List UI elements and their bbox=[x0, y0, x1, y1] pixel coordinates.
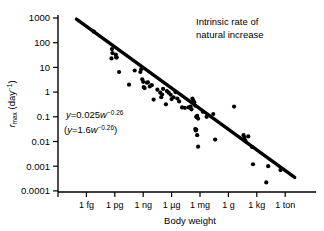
data-point bbox=[139, 67, 143, 71]
fit-equation-1: y=0.025w−0.26 bbox=[65, 109, 124, 121]
scatter-plot-svg: 10001001010.10.010.0010.0001 1 fg1 pg1 n… bbox=[0, 0, 324, 231]
x-tick-label: 1 pg bbox=[106, 200, 124, 210]
data-point bbox=[160, 92, 164, 96]
data-point bbox=[250, 145, 254, 149]
data-point bbox=[143, 86, 147, 90]
y-tick-label: 1000 bbox=[29, 12, 50, 23]
annotation-line-2: natural increase bbox=[196, 29, 264, 40]
y-tick-label: 0.01 bbox=[32, 136, 51, 147]
data-point bbox=[92, 30, 96, 34]
data-point bbox=[196, 116, 200, 120]
eq2-exponent: −0.26 bbox=[98, 124, 115, 131]
y-tick-label: 0.001 bbox=[26, 161, 50, 172]
y-tick-label: 1 bbox=[45, 86, 50, 97]
x-tick-label: 1 fg bbox=[79, 200, 94, 210]
y-tick-label: 10 bbox=[39, 62, 50, 73]
y-axis-unit-close: ) bbox=[6, 80, 17, 83]
eq1-exponent: −0.26 bbox=[107, 109, 124, 116]
data-point bbox=[201, 110, 205, 114]
eq2-coefficient: 1.6 bbox=[77, 124, 90, 135]
y-axis-subscript: max bbox=[11, 111, 18, 124]
data-point bbox=[109, 56, 113, 60]
data-point bbox=[243, 139, 247, 143]
data-point bbox=[117, 70, 121, 74]
x-tick-label: 1 ng bbox=[134, 200, 152, 210]
data-point bbox=[194, 128, 198, 132]
data-point bbox=[161, 87, 165, 91]
data-point bbox=[232, 104, 236, 108]
data-point bbox=[189, 107, 193, 111]
data-point bbox=[193, 104, 197, 108]
x-tick-label: 1 kg bbox=[248, 200, 265, 210]
data-point bbox=[251, 162, 255, 166]
x-tick-label: 1 g bbox=[222, 200, 235, 210]
annotation-line-1: Intrinsic rate of bbox=[196, 16, 259, 27]
fit-equation-2: (y=1.6w−0.26) bbox=[64, 124, 117, 136]
data-point bbox=[278, 168, 282, 172]
data-point bbox=[196, 145, 200, 149]
data-point bbox=[213, 137, 217, 141]
data-point bbox=[266, 164, 270, 168]
data-point bbox=[141, 80, 145, 84]
y-tick-label: 100 bbox=[34, 37, 50, 48]
x-axis-title: Body weight bbox=[164, 215, 216, 226]
x-tick-label: 1 mg bbox=[190, 200, 210, 210]
data-point bbox=[171, 95, 175, 99]
data-point bbox=[164, 102, 168, 106]
data-point bbox=[127, 83, 131, 87]
data-point bbox=[183, 106, 187, 110]
data-point bbox=[195, 133, 199, 137]
x-tick-label: 1 ton bbox=[275, 200, 295, 210]
data-point bbox=[115, 55, 119, 59]
data-point bbox=[264, 180, 268, 184]
data-point bbox=[133, 68, 137, 72]
eq2-close: ) bbox=[114, 124, 117, 135]
y-axis-ticks: 10001001010.10.010.0010.0001 bbox=[21, 12, 58, 196]
data-point bbox=[246, 134, 250, 138]
data-point bbox=[205, 115, 209, 119]
chart-figure: 10001001010.10.010.0010.0001 1 fg1 pg1 n… bbox=[0, 0, 324, 231]
data-point bbox=[152, 97, 156, 101]
x-axis-ticks: 1 fg1 pg1 ng1 µg1 mg1 g1 kg1 ton bbox=[58, 192, 295, 210]
y-axis-title: rmax (day−1) bbox=[6, 80, 18, 127]
y-tick-label: 0.0001 bbox=[21, 185, 50, 196]
data-point bbox=[173, 90, 177, 94]
x-tick-label: 1 µg bbox=[163, 200, 181, 210]
eq1-coefficient: 0.025 bbox=[76, 109, 100, 120]
data-point bbox=[110, 47, 114, 51]
data-point bbox=[146, 80, 150, 84]
data-point bbox=[211, 112, 215, 116]
data-point bbox=[150, 83, 154, 87]
svg-text:rmax (day−1): rmax (day−1) bbox=[6, 80, 18, 127]
y-tick-label: 0.1 bbox=[37, 111, 50, 122]
regression-line bbox=[76, 19, 294, 177]
y-axis-unit-open: (day bbox=[6, 91, 17, 110]
data-point bbox=[177, 99, 181, 103]
